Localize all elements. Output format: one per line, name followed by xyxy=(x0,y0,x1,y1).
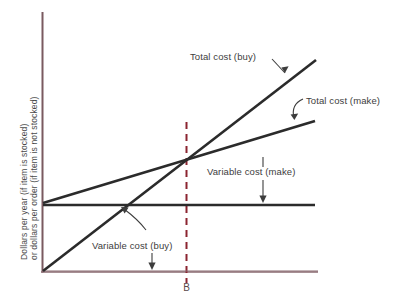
arrow-head-icon xyxy=(148,262,155,270)
annotation-total-cost-make: Total cost (make) xyxy=(291,95,380,120)
cost-comparison-chart: Dollars per year (if item is stocked) or… xyxy=(0,0,398,299)
y-axis-label: Dollars per year (if item is stocked) or… xyxy=(19,96,39,260)
annotation-variable-cost-make: Variable cost (make) xyxy=(207,157,295,203)
annotation-total-cost-buy-leader xyxy=(272,59,285,73)
annotation-total-cost-buy: Total cost (buy) xyxy=(190,51,289,73)
annotation-total-cost-buy-label: Total cost (buy) xyxy=(190,51,256,62)
x-axis-tick-label-b: B xyxy=(183,282,190,293)
y-axis-label-line2: or dollars per order (if item is not sto… xyxy=(29,96,39,260)
annotation-variable-cost-buy-leader-up xyxy=(124,209,146,230)
annotation-total-cost-make-label: Total cost (make) xyxy=(306,95,380,106)
annotation-variable-cost-buy: Variable cost (buy) xyxy=(92,207,172,270)
series-total-cost-make xyxy=(43,121,315,203)
arrow-head-icon xyxy=(259,195,266,203)
annotation-variable-cost-buy-label: Variable cost (buy) xyxy=(92,240,172,251)
figure-container: Dollars per year (if item is stocked) or… xyxy=(0,0,398,299)
arrow-head-icon xyxy=(291,114,299,120)
annotation-variable-cost-make-label: Variable cost (make) xyxy=(207,166,295,177)
y-axis-label-line1: Dollars per year (if item is stocked) xyxy=(19,124,29,260)
